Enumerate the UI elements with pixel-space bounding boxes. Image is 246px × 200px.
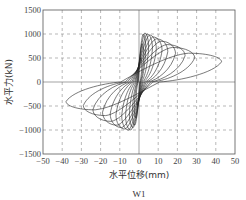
y-tick-label: −1000 xyxy=(19,125,41,135)
hysteresis-curves xyxy=(66,33,222,130)
y-tick-label: 0 xyxy=(37,77,41,87)
x-tick-label: −40 xyxy=(56,156,69,166)
x-tick-label: 20 xyxy=(173,156,182,166)
y-tick-label: 1500 xyxy=(24,5,41,15)
x-tick-label: −20 xyxy=(94,156,107,166)
x-tick-label: 30 xyxy=(192,156,201,166)
y-tick-label: −1500 xyxy=(19,149,41,159)
figure-caption: W1 xyxy=(133,189,146,199)
x-tick-label: −10 xyxy=(113,156,126,166)
x-axis-label: 水平位移(mm) xyxy=(109,169,170,180)
x-tick-label: 0 xyxy=(137,156,141,166)
y-tick-label: 500 xyxy=(28,53,41,63)
hysteresis-chart: −50−40−30−20−1001020304050 −1500−1000−50… xyxy=(0,0,246,200)
x-tick-label: −30 xyxy=(75,156,88,166)
y-axis-label: 水平力(kN) xyxy=(3,59,14,105)
x-tick-label: 50 xyxy=(231,156,240,166)
y-axis-ticks: −1500−1000−500050010001500 xyxy=(19,5,41,159)
y-tick-label: 1000 xyxy=(24,29,41,39)
x-tick-label: 40 xyxy=(212,156,221,166)
y-tick-label: −500 xyxy=(23,101,41,111)
x-tick-label: 10 xyxy=(154,156,163,166)
grid-lines xyxy=(43,10,235,154)
x-axis-ticks: −50−40−30−20−1001020304050 xyxy=(36,156,239,166)
